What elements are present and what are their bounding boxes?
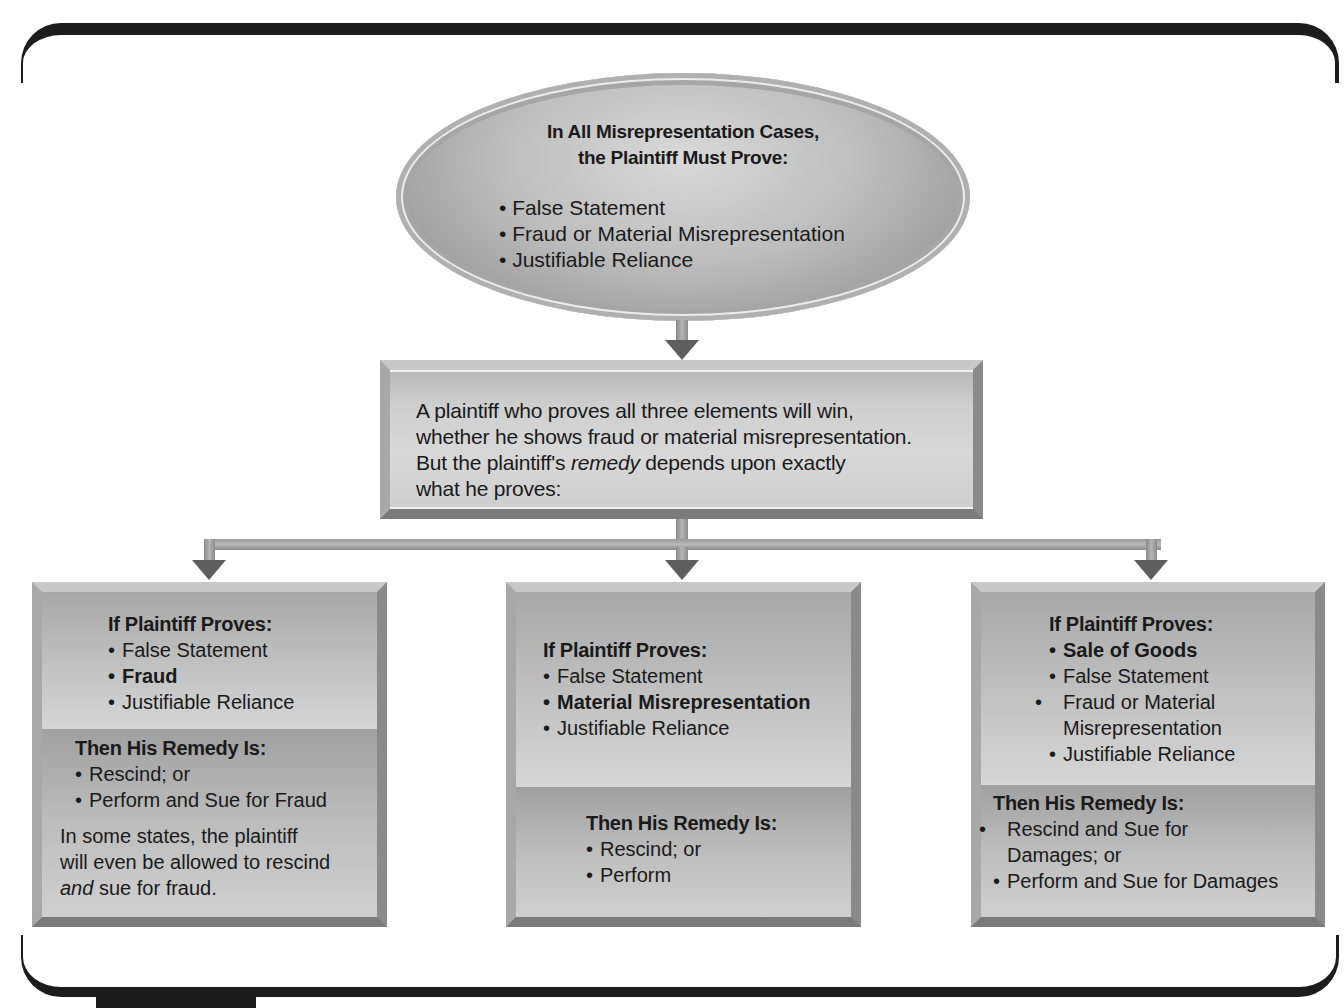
list-item: •Fraud bbox=[108, 663, 294, 689]
remedy-section: Then His Remedy Is: •Rescind and Sue for… bbox=[981, 785, 1315, 917]
list-item: •Fraud or Material Misrepresentation bbox=[1049, 689, 1253, 741]
remedy-list: Then His Remedy Is: •Rescind and Sue for… bbox=[993, 790, 1313, 894]
proves-section: If Plaintiff Proves: •False Statement •M… bbox=[516, 592, 851, 787]
italic-and: and bbox=[60, 877, 93, 899]
arrow-down-icon bbox=[665, 340, 699, 360]
remedy-header: Then His Remedy Is: bbox=[993, 790, 1313, 816]
list-item: •Material Misrepresentation bbox=[543, 689, 810, 715]
text-segment: depends upon exactly bbox=[640, 451, 846, 474]
item-text: Rescind; or bbox=[600, 838, 701, 860]
arrow-down-icon bbox=[192, 560, 226, 580]
proves-list: If Plaintiff Proves: •Sale of Goods •Fal… bbox=[1049, 611, 1309, 767]
ellipse-title-line1: In All Misrepresentation Cases, bbox=[396, 119, 970, 145]
note-line2: will even be allowed to rescind bbox=[60, 849, 330, 875]
list-item: •Sale of Goods bbox=[1049, 637, 1309, 663]
proves-section: If Plaintiff Proves: •False Statement •F… bbox=[42, 592, 377, 729]
item-text: Perform and Sue for Fraud bbox=[89, 789, 327, 811]
proves-list: If Plaintiff Proves: •False Statement •M… bbox=[543, 637, 810, 741]
list-item: •Rescind; or bbox=[75, 761, 327, 787]
list-item: Justifiable Reliance bbox=[499, 247, 845, 273]
frame-bottom-border bbox=[21, 935, 1339, 997]
list-item: •Perform and Sue for Fraud bbox=[75, 787, 327, 813]
explanation-box-inner: A plaintiff who proves all three element… bbox=[390, 370, 973, 509]
connector-line bbox=[676, 320, 688, 342]
item-text: Perform bbox=[600, 864, 671, 886]
item-text: Perform and Sue for Damages bbox=[1007, 870, 1278, 892]
list-item: •Rescind and Sue for Damages; or bbox=[993, 816, 1217, 868]
proves-header: If Plaintiff Proves: bbox=[108, 611, 294, 637]
explanation-box: A plaintiff who proves all three element… bbox=[380, 360, 983, 519]
explanation-line1: A plaintiff who proves all three element… bbox=[416, 398, 912, 424]
item-text: Fraud bbox=[122, 665, 178, 687]
proves-header: If Plaintiff Proves: bbox=[543, 637, 810, 663]
item-text: Sale of Goods bbox=[1063, 639, 1197, 661]
ellipse-requirements-list: False Statement Fraud or Material Misrep… bbox=[499, 195, 845, 273]
branch-fraud: If Plaintiff Proves: •False Statement •F… bbox=[32, 582, 387, 927]
frame-bottom-tab bbox=[96, 995, 256, 1008]
proves-list: If Plaintiff Proves: •False Statement •F… bbox=[108, 611, 294, 715]
requirements-ellipse: In All Misrepresentation Cases, the Plai… bbox=[396, 73, 970, 321]
item-text: Material Misrepresentation bbox=[557, 691, 810, 713]
note-line1: In some states, the plaintiff bbox=[60, 823, 330, 849]
list-item: •False Statement bbox=[108, 637, 294, 663]
item-text: Rescind; or bbox=[89, 763, 190, 785]
remedy-list: Then His Remedy Is: •Rescind; or •Perfor… bbox=[75, 735, 327, 813]
remedy-header: Then His Remedy Is: bbox=[75, 735, 327, 761]
list-item: •Justifiable Reliance bbox=[1049, 741, 1309, 767]
item-text: False Statement bbox=[557, 665, 703, 687]
list-item: •Justifiable Reliance bbox=[543, 715, 810, 741]
remedy-header: Then His Remedy Is: bbox=[586, 810, 777, 836]
item-text: False Statement bbox=[122, 639, 268, 661]
branch-sale-of-goods: If Plaintiff Proves: •Sale of Goods •Fal… bbox=[971, 582, 1325, 927]
list-item: •Perform bbox=[586, 862, 777, 888]
list-item: •False Statement bbox=[543, 663, 810, 689]
remedy-section: Then His Remedy Is: •Rescind; or •Perfor… bbox=[42, 729, 377, 917]
proves-header: If Plaintiff Proves: bbox=[1049, 611, 1309, 637]
ellipse-title: In All Misrepresentation Cases, the Plai… bbox=[396, 119, 970, 171]
item-text: Justifiable Reliance bbox=[1063, 743, 1235, 765]
item-text: Justifiable Reliance bbox=[557, 717, 729, 739]
explanation-line3: But the plaintiff's remedy depends upon … bbox=[416, 450, 912, 476]
list-item: False Statement bbox=[499, 195, 845, 221]
remedy-section: Then His Remedy Is: •Rescind; or •Perfor… bbox=[516, 787, 851, 917]
list-item: •Rescind; or bbox=[586, 836, 777, 862]
italic-remedy: remedy bbox=[571, 451, 640, 474]
arrow-down-icon bbox=[665, 560, 699, 580]
explanation-line4: what he proves: bbox=[416, 476, 912, 502]
list-item: Fraud or Material Misrepresentation bbox=[499, 221, 845, 247]
text-segment: But the plaintiff's bbox=[416, 451, 571, 474]
remedy-list: Then His Remedy Is: •Rescind; or •Perfor… bbox=[586, 810, 777, 888]
list-item: •Justifiable Reliance bbox=[108, 689, 294, 715]
proves-section: If Plaintiff Proves: •Sale of Goods •Fal… bbox=[981, 592, 1315, 785]
list-item: •False Statement bbox=[1049, 663, 1309, 689]
item-text: Fraud or Material Misrepresentation bbox=[1063, 691, 1222, 739]
note-line3: and sue for fraud. bbox=[60, 875, 330, 901]
item-text: Rescind and Sue for Damages; or bbox=[1007, 818, 1188, 866]
list-item: •Perform and Sue for Damages bbox=[993, 868, 1313, 894]
arrow-down-icon bbox=[1134, 560, 1168, 580]
text-segment: sue for fraud. bbox=[93, 877, 216, 899]
item-text: False Statement bbox=[1063, 665, 1209, 687]
explanation-line2: whether he shows fraud or material misre… bbox=[416, 424, 912, 450]
explanation-text: A plaintiff who proves all three element… bbox=[416, 398, 912, 502]
ellipse-title-line2: the Plaintiff Must Prove: bbox=[396, 145, 970, 171]
remedy-note: In some states, the plaintiff will even … bbox=[60, 823, 330, 901]
branch-material-misrepresentation: If Plaintiff Proves: •False Statement •M… bbox=[506, 582, 861, 927]
item-text: Justifiable Reliance bbox=[122, 691, 294, 713]
